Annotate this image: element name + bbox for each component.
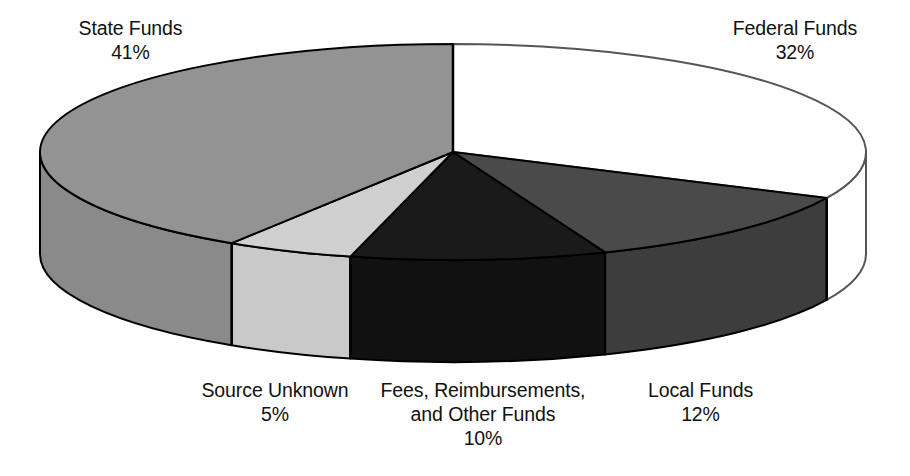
slice-label-state-funds-name: State Funds bbox=[38, 16, 223, 40]
pie-side-fees-reimbursements bbox=[350, 252, 605, 362]
slice-label-fees-other-funds: Fees, Reimbursements, and Other Funds 10… bbox=[368, 378, 598, 450]
slice-label-source-unknown-name: Source Unknown bbox=[180, 378, 370, 402]
pie-top-faces bbox=[40, 44, 866, 260]
pie-side-source-unknown bbox=[232, 243, 351, 358]
slice-label-source-unknown-percent: 5% bbox=[180, 402, 370, 426]
slice-label-local-funds-percent: 12% bbox=[608, 402, 793, 426]
slice-label-local-funds-name: Local Funds bbox=[608, 378, 793, 402]
slice-label-fees-other-funds-name-line2: and Other Funds bbox=[368, 402, 598, 426]
pie-chart-figure: State Funds 41% Federal Funds 32% Source… bbox=[0, 0, 910, 476]
slice-label-federal-funds-name: Federal Funds bbox=[700, 16, 890, 40]
slice-label-federal-funds-percent: 32% bbox=[700, 40, 890, 64]
slice-label-federal-funds: Federal Funds 32% bbox=[700, 16, 890, 64]
slice-label-state-funds: State Funds 41% bbox=[38, 16, 223, 64]
slice-label-fees-other-funds-percent: 10% bbox=[368, 426, 598, 450]
slice-label-source-unknown: Source Unknown 5% bbox=[180, 378, 370, 426]
slice-label-state-funds-percent: 41% bbox=[38, 40, 223, 64]
slice-label-fees-other-funds-name-line1: Fees, Reimbursements, bbox=[368, 378, 598, 402]
slice-label-local-funds: Local Funds 12% bbox=[608, 378, 793, 426]
